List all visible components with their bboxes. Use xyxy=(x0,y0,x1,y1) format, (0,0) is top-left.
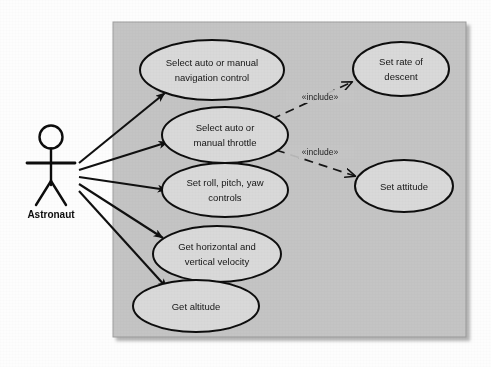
use-case-diagram: «include» «include» Select auto or manua… xyxy=(0,0,491,367)
include-label-1: «include» xyxy=(286,90,354,103)
use-case-uc2[interactable]: Select auto or manual throttle xyxy=(162,107,288,163)
use-case-uc6-label-line2: descent xyxy=(384,71,418,82)
use-case-uc5[interactable]: Get altitude xyxy=(133,280,259,332)
use-case-uc5-label-line1: Get altitude xyxy=(172,301,221,312)
use-case-uc4[interactable]: Get horizontal and vertical velocity xyxy=(153,226,281,282)
use-case-uc3-label-line1: Set roll, pitch, yaw xyxy=(186,177,263,188)
use-case-uc7[interactable]: Set attitude xyxy=(355,160,453,212)
use-case-uc4-label-line1: Get horizontal and xyxy=(178,241,256,252)
actor-leg-left xyxy=(36,181,51,205)
use-case-uc3-label-line2: controls xyxy=(208,192,242,203)
diagram-canvas: «include» «include» Select auto or manua… xyxy=(0,0,491,367)
use-case-uc6[interactable]: Set rate of descent xyxy=(353,42,449,96)
use-case-uc2-label-line2: manual throttle xyxy=(194,137,257,148)
use-case-uc2-label-line1: Select auto or xyxy=(196,122,255,133)
include-label-2: «include» xyxy=(286,145,354,158)
actor-leg-right xyxy=(51,181,66,205)
use-case-uc6-label-line1: Set rate of xyxy=(379,56,423,67)
use-case-uc7-label-line1: Set attitude xyxy=(380,181,428,192)
actor-name-label: Astronaut xyxy=(27,209,75,220)
include-label-2-text: «include» xyxy=(302,147,339,157)
include-label-1-text: «include» xyxy=(302,92,339,102)
actor-stick-figure-icon xyxy=(27,126,75,206)
use-case-uc4-label-line2: vertical velocity xyxy=(185,256,250,267)
use-case-uc1-label-line1: Select auto or manual xyxy=(166,57,258,68)
use-case-uc1-label-line2: navigation control xyxy=(175,72,249,83)
actor-head xyxy=(40,126,63,149)
actor-astronaut[interactable]: Astronaut xyxy=(27,126,75,221)
use-case-uc1[interactable]: Select auto or manual navigation control xyxy=(140,40,284,100)
use-case-uc3[interactable]: Set roll, pitch, yaw controls xyxy=(162,163,288,217)
